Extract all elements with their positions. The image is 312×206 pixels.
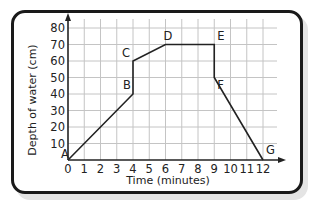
- y-tick-label: 80: [50, 21, 65, 35]
- y-tick-label: 50: [50, 71, 65, 85]
- point-labels: ABCDEFG: [61, 29, 275, 162]
- grid-lines: [68, 19, 277, 160]
- x-tick-label: 0: [64, 162, 71, 176]
- point-label-e: E: [217, 29, 224, 43]
- x-axis-arrow-icon: [278, 157, 286, 163]
- y-tick-labels: 1020304050607080: [50, 21, 65, 151]
- x-tick-label: 2: [97, 162, 104, 176]
- axes: [65, 13, 286, 163]
- y-tick-label: 60: [50, 54, 65, 68]
- x-tick-label: 1: [81, 162, 88, 176]
- y-tick-label: 70: [50, 38, 65, 52]
- y-axis-title: Depth of water (cm): [26, 44, 39, 155]
- x-tick-label: 3: [113, 162, 120, 176]
- line-chart: 0123456789101112 1020304050607080 ABCDEF…: [0, 0, 312, 206]
- y-tick-label: 30: [50, 104, 65, 118]
- x-tick-label: 11: [239, 162, 254, 176]
- x-tick-label: 10: [223, 162, 238, 176]
- y-tick-label: 40: [50, 87, 65, 101]
- x-tick-label: 9: [211, 162, 218, 176]
- x-axis-title: Time (minutes): [125, 174, 210, 187]
- point-label-g: G: [266, 143, 275, 157]
- y-axis-arrow-icon: [65, 13, 71, 21]
- point-label-f: F: [217, 78, 224, 92]
- y-tick-label: 20: [50, 120, 65, 134]
- point-label-d: D: [164, 29, 173, 43]
- x-tick-label: 12: [256, 162, 271, 176]
- point-label-c: C: [122, 46, 130, 60]
- point-label-a: A: [61, 147, 69, 161]
- point-label-b: B: [123, 78, 131, 92]
